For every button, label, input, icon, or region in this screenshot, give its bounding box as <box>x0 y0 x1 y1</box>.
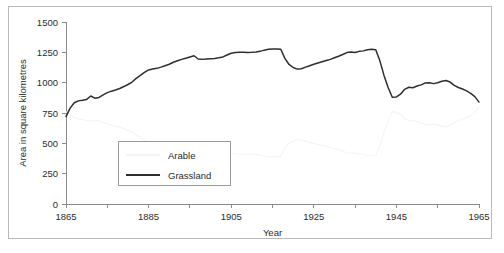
y-tick-label: 500 <box>42 138 58 149</box>
x-tick-label: 1965 <box>468 211 489 222</box>
x-axis-title: Year <box>263 227 282 238</box>
y-tick-label: 1000 <box>37 77 58 88</box>
series-line-grassland <box>66 49 479 117</box>
y-tick-label: 1500 <box>37 17 58 28</box>
y-tick-label: 750 <box>42 108 58 119</box>
legend-label-arable: Arable <box>168 150 195 161</box>
y-tick-label: 0 <box>53 199 58 210</box>
legend-label-grassland: Grassland <box>168 170 211 181</box>
y-tick-label: 250 <box>42 168 58 179</box>
chart-figure: 0250500750100012501500186518851905192519… <box>0 0 504 253</box>
x-tick-label: 1885 <box>138 211 159 222</box>
x-tick-label: 1925 <box>303 211 324 222</box>
y-tick-label: 1250 <box>37 47 58 58</box>
x-tick-label: 1945 <box>386 211 407 222</box>
x-tick-label: 1905 <box>221 211 242 222</box>
x-tick-label: 1865 <box>55 211 76 222</box>
y-axis-title: Area in square kilometres <box>17 59 28 167</box>
line-chart: 0250500750100012501500186518851905192519… <box>0 0 504 253</box>
